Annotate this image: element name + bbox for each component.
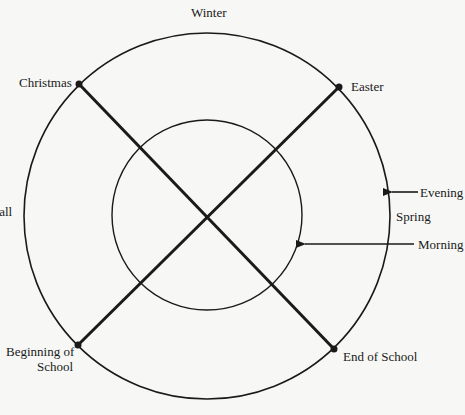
event-label-beginning-of-school-line1: Beginning of xyxy=(6,344,75,359)
event-label-beginning-of-school-line2: School xyxy=(37,359,74,374)
christmas-dot xyxy=(76,81,83,88)
end-of-school-dot xyxy=(331,346,338,353)
easter-dot xyxy=(336,84,343,91)
beginning-of-school-dot xyxy=(75,342,82,349)
cycle-diagram: Winter Fall Spring Christmas Easter Begi… xyxy=(0,0,465,415)
season-label-winter: Winter xyxy=(191,5,227,20)
season-label-fall: Fall xyxy=(0,204,13,219)
arrow-label-evening: Evening xyxy=(420,185,464,200)
event-label-end-of-school: End of School xyxy=(343,349,418,364)
event-label-easter: Easter xyxy=(351,79,384,94)
event-label-christmas: Christmas xyxy=(19,75,72,90)
season-label-spring: Spring xyxy=(396,209,431,224)
arrow-label-morning: Morning xyxy=(418,237,464,252)
